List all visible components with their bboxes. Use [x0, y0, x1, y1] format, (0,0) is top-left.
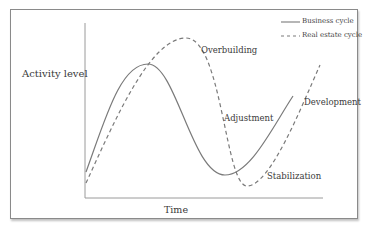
annotation-stabilization: Stabilization — [267, 171, 321, 181]
y-axis-label: Activity level — [22, 68, 88, 79]
annotation-adjustment: Adjustment — [224, 113, 273, 123]
annotation-development: Development — [304, 97, 361, 107]
legend-business-cycle: Business cycle — [302, 17, 354, 25]
x-axis-label: Time — [164, 204, 188, 215]
annotation-overbuilding: Overbuilding — [201, 45, 257, 55]
legend-real-estate-cycle: Real estate cycle — [302, 31, 362, 39]
real-estate-cycle-line — [86, 38, 320, 186]
